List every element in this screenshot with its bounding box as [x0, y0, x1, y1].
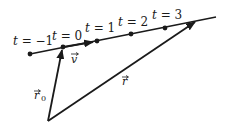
point-t-3 [163, 26, 168, 31]
label-t-0: t = 0 [52, 29, 82, 43]
label-t-minus-1: t = −1 [13, 34, 53, 48]
svg-text:0: 0 [41, 94, 46, 103]
point-t-2 [129, 32, 134, 37]
label-r0: r 0 [34, 89, 46, 103]
label-v: v [71, 53, 79, 67]
label-t-2: t = 2 [118, 15, 148, 29]
vector-r0-arrow [48, 50, 62, 121]
label-t-3: t = 3 [152, 8, 182, 22]
label-t-1: t = 1 [85, 21, 115, 35]
point-t-1 [95, 39, 100, 44]
point-t-minus-1 [28, 52, 33, 57]
vector-line-diagram: t = −1 t = 0 t = 1 t = 2 t = 3 v r 0 r [0, 0, 228, 129]
label-r: r [122, 75, 129, 88]
